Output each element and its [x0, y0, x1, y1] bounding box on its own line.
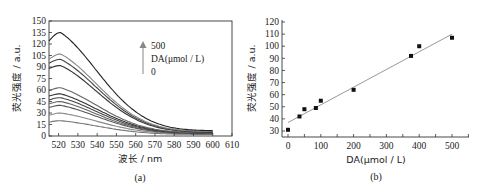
y-tick-label: 60 — [37, 85, 47, 95]
panel-a-caption: (a) — [134, 172, 145, 184]
x-tick-label: 610 — [225, 140, 240, 150]
panel-a-x-label: 波长 / nm — [118, 153, 163, 164]
panel-b-y-label: 荧光强度 / a.u. — [246, 44, 257, 111]
y-tick-label: 120 — [32, 39, 47, 49]
x-tick-label: 500 — [445, 141, 460, 151]
x-tick-label: 0 — [286, 141, 291, 151]
y-tick-label: 135 — [32, 28, 47, 38]
x-tick-label: 550 — [109, 140, 124, 150]
y-tick-label: 80 — [270, 66, 280, 76]
panel-b-fit-line — [288, 34, 452, 122]
y-tick-label: 70 — [270, 78, 280, 88]
figure: 0153045607590105120135150 52053054055056… — [0, 0, 484, 192]
y-tick-label: 90 — [37, 62, 47, 72]
y-tick-label: 45 — [37, 97, 47, 107]
panel-a-legend: 500 DA(μmol / L) 0 — [140, 41, 205, 77]
panel-b-chart: 30405060708090100110120 0100200300400500… — [246, 17, 469, 183]
x-tick-label: 570 — [148, 140, 163, 150]
panel-a-chart: 0153045607590105120135150 52053054055056… — [11, 16, 239, 184]
spectrum-curve — [49, 59, 213, 132]
y-tick-label: 90 — [270, 54, 280, 64]
data-point — [319, 99, 323, 103]
x-tick-label: 530 — [71, 140, 86, 150]
x-tick-label: 600 — [206, 140, 221, 150]
y-tick-label: 100 — [265, 41, 280, 51]
panel-b-caption: (b) — [370, 171, 382, 183]
x-tick-label: 100 — [314, 141, 329, 151]
y-tick-label: 50 — [270, 102, 280, 112]
data-point — [302, 107, 306, 111]
arrow-head-icon — [140, 41, 147, 48]
legend-bottom: 0 — [151, 67, 156, 77]
data-point — [409, 54, 413, 58]
panel-b-points — [286, 36, 454, 132]
y-tick-label: 0 — [41, 131, 46, 141]
data-point — [417, 44, 421, 48]
regression-line — [288, 34, 452, 122]
panel-b-x-label: DA(μmol / L) — [346, 154, 405, 165]
x-tick-label: 200 — [346, 141, 361, 151]
data-point — [286, 128, 290, 132]
data-point — [297, 114, 301, 118]
y-tick-label: 60 — [270, 90, 280, 100]
data-point — [450, 36, 454, 40]
y-tick-label: 40 — [270, 114, 280, 124]
y-tick-label: 105 — [32, 51, 47, 61]
y-tick-label: 75 — [37, 74, 47, 84]
x-tick-label: 580 — [167, 140, 182, 150]
x-tick-label: 300 — [379, 141, 394, 151]
y-tick-label: 30 — [37, 108, 47, 118]
x-tick-label: 400 — [412, 141, 427, 151]
x-tick-label: 560 — [129, 140, 144, 150]
y-tick-label: 120 — [265, 17, 280, 27]
y-tick-label: 30 — [270, 126, 280, 136]
legend-top: 500 — [151, 41, 166, 51]
data-point — [314, 106, 318, 110]
data-point — [352, 88, 356, 92]
y-tick-label: 110 — [265, 29, 279, 39]
y-tick-label: 150 — [32, 16, 47, 26]
panel-a-y-label: 荧光强度 / a.u. — [11, 44, 22, 111]
x-tick-label: 590 — [186, 140, 201, 150]
x-tick-label: 520 — [52, 140, 67, 150]
legend-mid: DA(μmol / L) — [151, 54, 204, 65]
y-tick-label: 15 — [37, 120, 47, 130]
panel-a-curves — [49, 33, 213, 135]
x-tick-label: 540 — [90, 140, 105, 150]
